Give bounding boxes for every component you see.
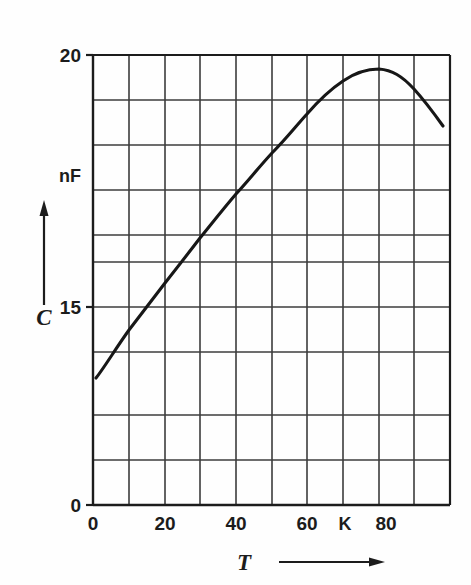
y-unit-label-nf: nF [59,166,81,186]
x-tick-label-80: 80 [375,513,396,534]
figure-container: 20 nF 15 0 0 20 40 60 K 80 C T [0,0,471,585]
y-axis-name: C [36,305,52,330]
x-tick-label-40: 40 [225,513,246,534]
x-tick-label-20: 20 [154,513,175,534]
x-tick-label-0: 0 [88,513,99,534]
y-tick-label-20: 20 [60,45,81,66]
capacitance-vs-temperature-chart: 20 nF 15 0 0 20 40 60 K 80 C T [0,0,471,585]
y-tick-label-0: 0 [70,495,81,516]
x-tick-label-60: 60 [296,513,317,534]
y-tick-label-15: 15 [60,297,82,318]
x-axis-name: T [237,550,252,575]
x-unit-label-k: K [339,514,352,534]
